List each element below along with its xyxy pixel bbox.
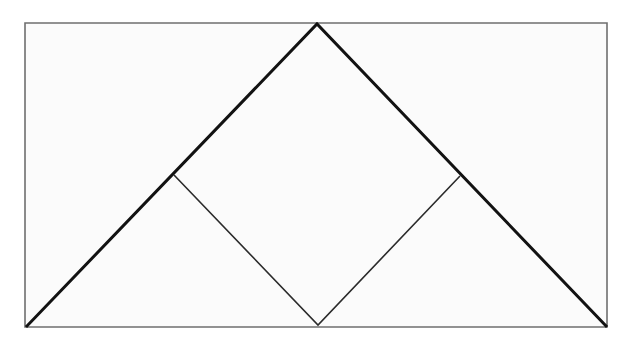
geometry-figure-canvas	[0, 0, 622, 349]
outer-rectangle	[25, 23, 607, 327]
